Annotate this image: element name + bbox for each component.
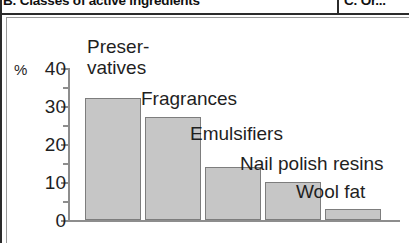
chart-figure: B. Classes of active ingredients C. Or..…: [0, 0, 409, 243]
plot-area: % 40 30 20 10 0 Preser- vatives Fragranc…: [0, 0, 409, 243]
y-axis-label-0: 0: [55, 211, 66, 230]
bar-label-emulsifiers: Emulsifiers: [190, 123, 283, 144]
x-axis-line: [68, 220, 400, 222]
bar-label-wool-fat: Wool fat: [296, 181, 365, 202]
y-tick-minor-5: [63, 201, 69, 203]
y-tick-minor-35: [63, 87, 69, 89]
y-axis-label-40: 40: [45, 59, 66, 78]
y-tick-minor-15: [63, 163, 69, 165]
y-tick-minor-25: [63, 125, 69, 127]
y-axis-unit-label: %: [14, 62, 27, 77]
bar-label-preservatives-line2: vatives: [87, 57, 146, 78]
bar-emulsifiers: [205, 167, 261, 220]
y-axis-label-30: 30: [45, 97, 66, 116]
y-axis-label-20: 20: [45, 135, 66, 154]
bar-preservatives: [85, 98, 141, 220]
bar-label-fragrances: Fragrances: [141, 88, 237, 109]
bar-label-nail-polish-resins: Nail polish resins: [240, 153, 384, 174]
bar-wool-fat: [325, 209, 381, 220]
y-axis-label-10: 10: [45, 173, 66, 192]
bar-label-preservatives-line1: Preser-: [87, 36, 149, 57]
